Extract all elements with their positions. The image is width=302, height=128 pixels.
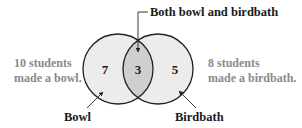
birdbath-label: Birdbath (175, 111, 224, 124)
intersection-label: Both bowl and birdbath (150, 6, 278, 19)
birdbath-arrow (179, 91, 196, 108)
bowl-total-line1: 10 students (14, 56, 82, 71)
birdbath-total-text: 8 students made a birdbath. (208, 56, 296, 86)
bowl-only-count: 7 (102, 63, 109, 76)
bowl-label: Bowl (64, 111, 91, 124)
bowl-total-text: 10 students made a bowl. (14, 56, 82, 86)
bowl-total-line2: made a bowl. (14, 71, 82, 86)
birdbath-total-line2: made a birdbath. (208, 71, 296, 86)
intersection-count: 3 (135, 63, 142, 76)
birdbath-total-line1: 8 students (208, 56, 296, 71)
birdbath-only-count: 5 (172, 63, 179, 76)
